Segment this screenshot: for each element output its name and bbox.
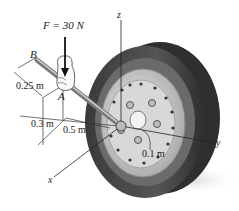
point-a-label: A bbox=[58, 91, 65, 102]
z-axis-label: z bbox=[117, 10, 121, 20]
force-label: F = 30 N bbox=[43, 20, 84, 31]
dim-0-1-label: 0.1 m bbox=[142, 149, 165, 159]
center-cap bbox=[130, 111, 146, 129]
y-axis-label: y bbox=[216, 138, 220, 148]
dim-0-25-label: 0.25 m bbox=[16, 81, 44, 91]
wheel-wrench-diagram bbox=[0, 0, 239, 211]
dim-0-3-label: 0.3 m bbox=[31, 119, 54, 129]
x-axis-label: x bbox=[48, 175, 52, 185]
dim-0-5-label: 0.5 m bbox=[63, 125, 86, 135]
wrench-socket bbox=[116, 121, 126, 131]
force-label-text: F = 30 N bbox=[43, 19, 84, 31]
point-b-label: B bbox=[30, 49, 37, 60]
